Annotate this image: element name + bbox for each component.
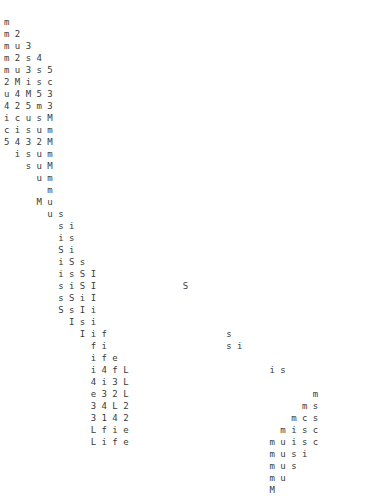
ascii-row: 4 i 3 L — [4, 376, 129, 388]
ascii-row: i c u s M — [4, 112, 53, 124]
ascii-row: L f i e m i s c — [4, 424, 318, 436]
ascii-row: 5 4 3 2 M — [4, 136, 53, 148]
ascii-row: I i f s — [4, 328, 232, 340]
ascii-row: m — [4, 184, 53, 196]
ascii-row: i f e — [4, 352, 118, 364]
ascii-row: 3 1 4 2 m c s — [4, 412, 318, 424]
ascii-row: u m — [4, 172, 53, 184]
ascii-row: 3 4 L 2 m s — [4, 400, 318, 412]
ascii-row: u s — [4, 208, 64, 220]
ascii-row: S i — [4, 244, 74, 256]
ascii-row: i s u m — [4, 148, 53, 160]
ascii-row: s i — [4, 220, 74, 232]
ascii-row: s i S I S — [4, 280, 188, 292]
ascii-row: m 2 — [4, 28, 20, 40]
ascii-row: f i s i — [4, 340, 242, 352]
ascii-row: M — [4, 484, 275, 496]
ascii-row: S s I i — [4, 304, 96, 316]
ascii-row: i s S I — [4, 268, 96, 280]
ascii-row: s S i I — [4, 292, 96, 304]
ascii-row: s u M — [4, 160, 53, 172]
ascii-row: m u — [4, 472, 286, 484]
ascii-row: m u s — [4, 460, 297, 472]
ascii-row: 4 2 5 m 3 — [4, 100, 53, 112]
ascii-row: 2 M i s c — [4, 76, 53, 88]
ascii-row: i 4 f L i s — [4, 364, 286, 376]
ascii-row: c i s u m — [4, 124, 53, 136]
ascii-row: m 2 s 4 — [4, 52, 42, 64]
ascii-row: m u 3 — [4, 40, 31, 52]
ascii-row: m u s i — [4, 448, 307, 460]
ascii-row: m — [4, 16, 9, 28]
ascii-row: i S s — [4, 256, 85, 268]
ascii-row: m u 3 s 5 — [4, 64, 53, 76]
ascii-row: e 3 2 L m — [4, 388, 318, 400]
ascii-row: M u — [4, 196, 53, 208]
ascii-row: L i f e m u i s c — [4, 436, 318, 448]
ascii-row: i s — [4, 232, 74, 244]
ascii-row: u 4 M 5 3 — [4, 88, 53, 100]
ascii-row: I s i — [4, 316, 96, 328]
